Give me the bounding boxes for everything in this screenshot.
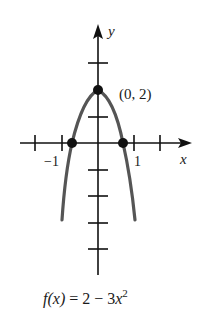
- caption-exp: 2: [122, 287, 128, 299]
- function-caption: f(x) = 2 − 3x2: [43, 287, 128, 308]
- parabola-graph: y x (0, 2) −1 1 f(x) = 2 − 3x2: [0, 0, 202, 322]
- vertex-point: [93, 85, 103, 95]
- x-tick-label-1: 1: [134, 154, 141, 169]
- vertex-label: (0, 2): [119, 86, 152, 103]
- x-axis-label: x: [179, 151, 187, 167]
- y-axis: [88, 24, 108, 275]
- caption-lhs: f(x): [43, 290, 65, 308]
- y-axis-label: y: [106, 23, 115, 39]
- caption-eq: = 2 − 3: [65, 290, 115, 307]
- caption-var: x: [114, 290, 122, 307]
- x-tick-label-neg1: −1: [44, 154, 59, 169]
- root-point-left: [67, 138, 77, 148]
- x-axis: [20, 135, 192, 151]
- root-point-right: [118, 138, 128, 148]
